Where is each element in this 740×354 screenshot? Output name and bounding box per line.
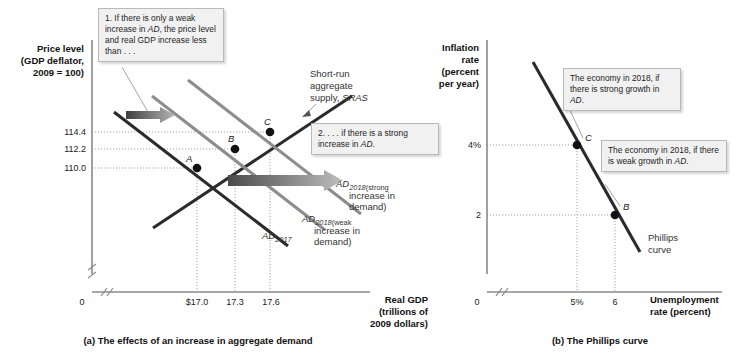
point-c-label: C: [264, 116, 271, 127]
sras-leader-arrowhead: [302, 110, 311, 117]
panel-b-y-tick-2: 2: [476, 210, 481, 220]
panel-b-caption: (b) The Phillips curve: [552, 335, 648, 346]
panel-a-x-axis-title-line2: (trillions of: [379, 306, 429, 317]
panel-a-x-tick-176: 17.6: [262, 297, 280, 307]
panel-b-y-axis-title-line2: rate: [462, 54, 479, 65]
ad-2018-weak-note-line3: demand): [314, 236, 352, 247]
callout-2-italic: AD: [361, 139, 373, 149]
callout-c-before: The economy in 2018, if there is strong …: [570, 73, 659, 94]
panel-a-y-tick-1122: 112.2: [64, 144, 86, 154]
panel-a-y-axis-title-line1: Price level: [37, 43, 84, 54]
panel-a-caption: (a) The effects of an increase in aggreg…: [83, 335, 312, 346]
point-c-label-b: C: [585, 132, 592, 143]
point-c-marker: [266, 128, 275, 137]
panel-a-y-tick-1100: 110.0: [64, 163, 86, 173]
point-a-marker: [193, 164, 202, 173]
callout-1-italic: AD: [148, 24, 160, 34]
ad-2018-strong-note-line2: increase in: [349, 190, 395, 201]
callout-c-leader: [568, 106, 583, 138]
ad-2017-label: AD2017: [261, 230, 293, 244]
panel-a-origin-label: 0: [79, 297, 84, 307]
panel-b-x-axis-title-line1: Unemployment: [650, 294, 719, 305]
panel-b-origin-label: 0: [474, 297, 479, 307]
callout-c-after: .: [582, 95, 584, 105]
panel-a-y-axis-title-line3: 2009 = 100): [33, 67, 84, 78]
panel-a-y-axis-title-line2: (GDP deflator,: [21, 55, 84, 66]
sras-label-italic: SRAS: [342, 92, 369, 103]
panel-a-group: A B C Price level (GDP deflator, 2009 = …: [21, 40, 429, 346]
sras-label-prefix: supply,: [310, 92, 342, 103]
callout-b-before: The economy in 2018, if there is weak gr…: [608, 145, 719, 166]
callout-economy-strong-growth: The economy in 2018, if there is strong …: [563, 68, 681, 111]
panel-b-y-tick-4pct: 4%: [468, 140, 481, 150]
callout-weak-increase: 1. If there is only a weak increase in A…: [98, 8, 224, 62]
shift-arrow-strong: [228, 170, 343, 191]
callout-b-italic: AD: [675, 156, 687, 166]
point-b-label-b: B: [623, 201, 630, 212]
sras-label-line3: supply, SRAS: [310, 92, 369, 103]
point-a-label: A: [185, 153, 192, 164]
panel-a-y-tick-1144: 114.4: [64, 127, 86, 137]
panel-a-x-tick-170: $17.0: [186, 297, 209, 307]
callout-b-after: .: [686, 156, 688, 166]
panel-a-x-axis-title-line3: 2009 dollars): [370, 318, 428, 329]
figure-canvas: A B C Price level (GDP deflator, 2009 = …: [0, 0, 740, 354]
callout-1-leader: [122, 67, 148, 112]
point-b-label: B: [228, 133, 235, 144]
callout-c-italic: AD: [570, 95, 582, 105]
sras-label-line2: aggregate: [310, 80, 353, 91]
sras-label-line1: Short-run: [310, 68, 350, 79]
panel-b-y-axis-title-line3: (percent: [442, 66, 480, 77]
panel-b-y-axis-title-line4: per year): [439, 78, 479, 89]
panel-b-x-axis-title-line2: rate (percent): [650, 306, 711, 317]
sras-curve: [153, 96, 352, 228]
panel-b-y-axis-title-line1: Inflation: [442, 42, 479, 53]
callout-economy-weak-growth: The economy in 2018, if there is weak gr…: [601, 140, 727, 172]
ad-2018-weak-note-line2: increase in: [314, 225, 360, 236]
panel-b-x-tick-6: 6: [612, 297, 617, 307]
callout-2-after: .: [372, 139, 374, 149]
point-b-marker: [231, 145, 240, 154]
ad-2018-strong-note-line3: demand): [349, 201, 387, 212]
phillips-label-line1: Phillips: [648, 232, 678, 243]
panel-b-gridlines: [487, 145, 615, 292]
point-c-marker-b: [573, 141, 582, 150]
panel-a-x-tick-173: 17.3: [226, 297, 244, 307]
panel-b-x-tick-5pct: 5%: [570, 297, 583, 307]
callout-strong-increase: 2. . . . if there is a strong increase i…: [311, 123, 439, 155]
point-b-marker-b: [611, 211, 620, 220]
phillips-label-line2: curve: [648, 244, 671, 255]
panel-a-x-axis-title-line1: Real GDP: [385, 294, 429, 305]
